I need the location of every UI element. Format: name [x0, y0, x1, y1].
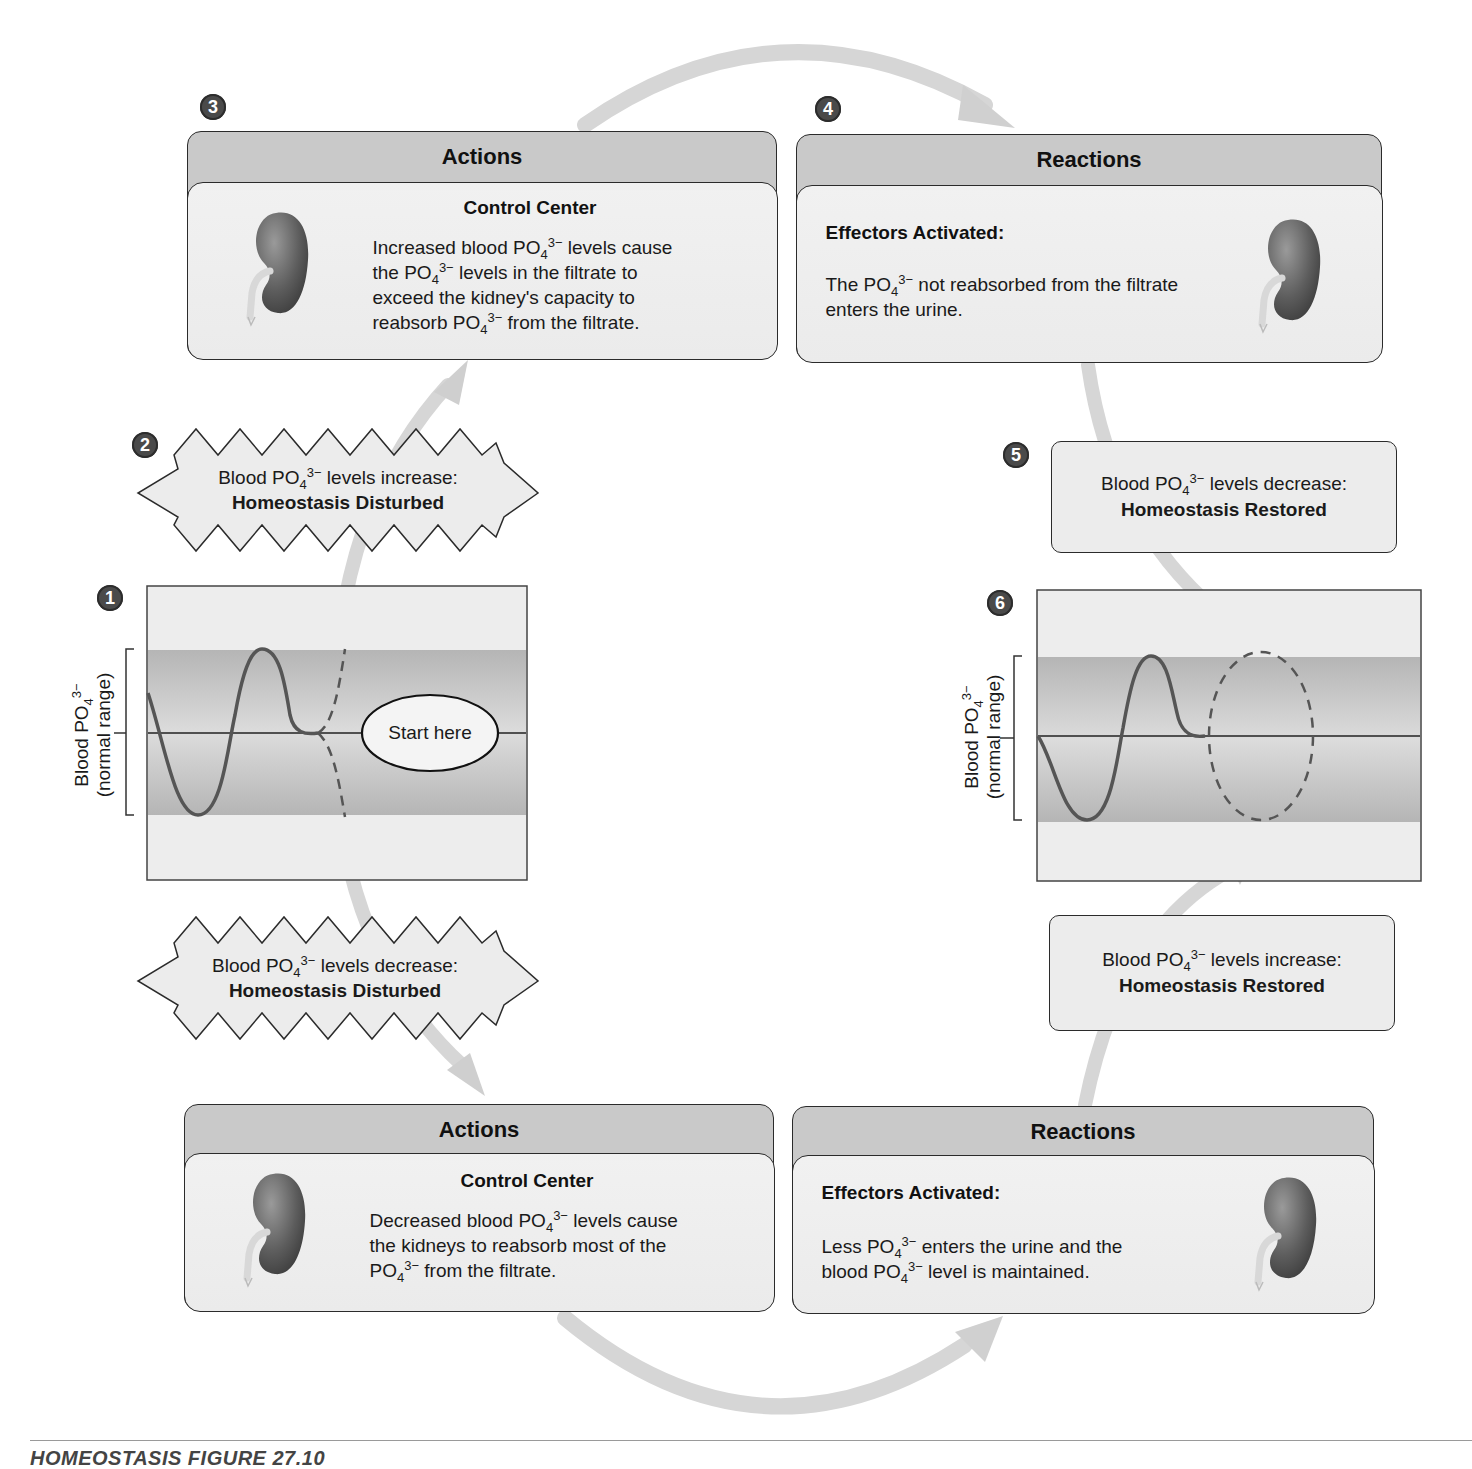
- text-line: Blood PO43−: [961, 637, 983, 837]
- text-line: Blood PO43− levels decrease:: [1101, 471, 1347, 497]
- text-line: enters the urine.: [826, 297, 1246, 322]
- restored-increase-box: Blood PO43− levels increase: Homeostasis…: [1049, 915, 1395, 1031]
- text-line: The PO43− not reabsorbed from the filtra…: [826, 272, 1246, 297]
- step-badge-5: 5: [1003, 442, 1029, 468]
- panel-body: Control Center Increased blood PO43− lev…: [187, 182, 778, 360]
- effectors-description: The PO43− not reabsorbed from the filtra…: [826, 272, 1246, 322]
- text-line: blood PO43− level is maintained.: [822, 1259, 1242, 1284]
- figure-caption: HOMEOSTASIS FIGURE 27.10: [30, 1447, 325, 1469]
- text-line: Blood PO43− levels decrease:: [212, 953, 458, 978]
- text-line: Blood PO43−: [71, 635, 93, 835]
- text-line: Blood PO43− levels increase:: [218, 465, 458, 490]
- caption-divider: [30, 1440, 1472, 1441]
- control-center-description: Decreased blood PO43− levels cause the k…: [370, 1208, 760, 1283]
- control-center-title: Control Center: [461, 1170, 594, 1192]
- text-line: PO43− from the filtrate.: [370, 1258, 760, 1283]
- effectors-title: Effectors Activated:: [826, 222, 1005, 244]
- burst-increase-text: Blood PO43− levels increase: Homeostasis…: [134, 425, 542, 555]
- panel-header: Actions: [188, 132, 776, 182]
- panel-body: Control Center Decreased blood PO43− lev…: [184, 1153, 775, 1312]
- control-center-title: Control Center: [464, 197, 597, 219]
- arrow-top-arc: [585, 52, 1015, 128]
- bottom-actions-panel: Actions Control Center Decreased blood P…: [184, 1104, 774, 1311]
- bottom-reactions-panel: Reactions Effectors Activated: Less PO43…: [792, 1106, 1374, 1313]
- text-line: Less PO43− enters the urine and the: [822, 1234, 1242, 1259]
- panel-body: Effectors Activated: Less PO43− enters t…: [792, 1155, 1375, 1314]
- effectors-title: Effectors Activated:: [822, 1182, 1001, 1204]
- arrow-bottom-arc: [565, 1316, 1003, 1406]
- effectors-description: Less PO43− enters the urine and the bloo…: [822, 1234, 1242, 1284]
- restored-decrease-box: Blood PO43− levels decrease: Homeostasis…: [1051, 441, 1397, 553]
- text-line: Increased blood PO43− levels cause: [373, 235, 763, 260]
- step-badge-4: 4: [815, 96, 841, 122]
- normal-range-band: [1038, 657, 1420, 822]
- step-badge-3: 3: [200, 94, 226, 120]
- graph-right: [995, 588, 1425, 884]
- start-here-label[interactable]: Start here: [362, 713, 498, 753]
- homeostasis-restored-label: Homeostasis Restored: [1119, 973, 1325, 999]
- kidney-icon: [240, 205, 310, 329]
- panel-header: Reactions: [797, 135, 1381, 185]
- text-line: the PO43− levels in the filtrate to: [373, 260, 763, 285]
- control-center-description: Increased blood PO43− levels cause the P…: [373, 235, 763, 335]
- homeostasis-restored-label: Homeostasis Restored: [1121, 497, 1327, 523]
- kidney-icon: [1248, 1170, 1318, 1294]
- text-line: the kidneys to reabsorb most of the: [370, 1233, 760, 1258]
- panel-header: Actions: [185, 1105, 773, 1155]
- kidney-icon: [1252, 212, 1322, 336]
- burst-decrease-text: Blood PO43− levels decrease: Homeostasis…: [134, 913, 536, 1043]
- text-line: reabsorb PO43− from the filtrate.: [373, 310, 763, 335]
- homeostasis-disturbed-label: Homeostasis Disturbed: [232, 490, 444, 515]
- panel-body: Effectors Activated: The PO43− not reabs…: [796, 185, 1383, 363]
- top-reactions-panel: Reactions Effectors Activated: The PO43−…: [796, 134, 1382, 362]
- homeostasis-disturbed-label: Homeostasis Disturbed: [229, 978, 441, 1003]
- text-line: exceed the kidney's capacity to: [373, 285, 763, 310]
- text-line: Blood PO43− levels increase:: [1102, 947, 1342, 973]
- kidney-icon: [237, 1166, 307, 1290]
- top-actions-panel: Actions Control Center Increased blood P…: [187, 131, 777, 359]
- panel-header: Reactions: [793, 1107, 1373, 1157]
- text-line: Decreased blood PO43− levels cause: [370, 1208, 760, 1233]
